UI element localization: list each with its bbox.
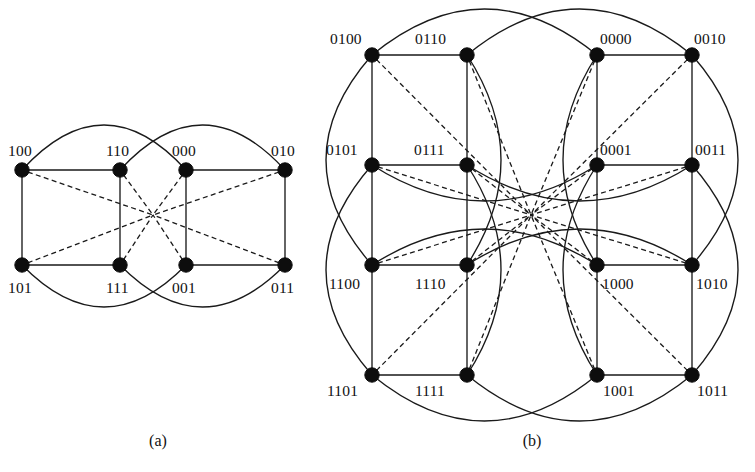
edge-arc-100-000 [22, 125, 186, 170]
dashed-edge-001-hub [153, 215, 183, 260]
figure-root: 100110000010101111001011 010001100000001… [0, 0, 755, 472]
node-label-010: 010 [271, 142, 295, 159]
node-label-0010: 0010 [694, 30, 726, 47]
node-1101[interactable] [365, 368, 379, 382]
node-label-1100: 1100 [329, 275, 360, 292]
node-label-1001: 1001 [603, 382, 635, 399]
edge-arc-101-001 [22, 265, 186, 307]
node-000[interactable] [179, 163, 193, 177]
edge-arc-0101-1101 [326, 165, 372, 375]
node-label-0111: 0111 [414, 141, 445, 158]
node-1100[interactable] [365, 258, 379, 272]
panel-b: 0100011000000010010101110001001111001110… [326, 9, 738, 421]
node-1000[interactable] [590, 258, 604, 272]
dashed-edge-1011-hub [531, 215, 688, 371]
node-101[interactable] [15, 258, 29, 272]
edge-arc-1101-1001 [372, 375, 597, 421]
node-011[interactable] [278, 258, 292, 272]
node-0110[interactable] [460, 48, 474, 62]
edge-arc-0100-1100 [326, 55, 372, 265]
dashed-edge-101-hub [28, 215, 153, 263]
edge-arc-110-010 [120, 125, 285, 170]
node-0101[interactable] [365, 158, 379, 172]
node-label-0110: 0110 [415, 30, 446, 47]
node-100[interactable] [15, 163, 29, 177]
dashed-edge-010-hub [153, 172, 279, 215]
dashed-edge-000-hub [153, 175, 182, 215]
node-label-0100: 0100 [330, 30, 362, 47]
edge-arc-0011-1011 [692, 165, 738, 375]
dashed-edge-0101-hub [378, 167, 531, 215]
dashed-edge-111-hub [123, 215, 153, 260]
node-label-0011: 0011 [695, 141, 726, 158]
dashed-edge-1101-hub [376, 215, 531, 371]
node-label-0001: 0001 [600, 141, 632, 158]
node-label-1011: 1011 [697, 382, 728, 399]
node-label-001: 001 [172, 279, 196, 296]
dashed-edge-1010-hub [531, 215, 686, 263]
node-label-100: 100 [8, 142, 32, 159]
node-label-110: 110 [106, 142, 129, 159]
node-label-1000: 1000 [602, 275, 634, 292]
dashed-edge-0011-hub [531, 167, 686, 215]
node-label-0000: 0000 [600, 30, 632, 47]
node-1010[interactable] [685, 258, 699, 272]
node-0000[interactable] [590, 48, 604, 62]
panel-caption-a: (a) [149, 432, 167, 450]
node-0100[interactable] [365, 48, 379, 62]
node-110[interactable] [113, 163, 127, 177]
dashed-edge-1100-hub [378, 215, 531, 263]
dashed-edge-110-hub [124, 175, 153, 215]
edge-arc-1111-1011 [467, 375, 692, 421]
node-1110[interactable] [460, 258, 474, 272]
node-label-1111: 1111 [415, 382, 445, 399]
node-0010[interactable] [685, 48, 699, 62]
node-0111[interactable] [460, 158, 474, 172]
panel-caption-b: (b) [523, 432, 542, 450]
edge-arc-111-011 [120, 265, 285, 307]
node-label-1010: 1010 [696, 275, 728, 292]
node-label-000: 000 [172, 142, 196, 159]
node-111[interactable] [113, 258, 127, 272]
edge-arc-0100-0000 [372, 9, 597, 55]
graph-canvas: 100110000010101111001011 010001100000001… [0, 0, 755, 472]
dashed-edge-100-hub [28, 172, 153, 215]
panel-a: 100110000010101111001011 [8, 125, 295, 307]
dashed-edge-011-hub [153, 215, 279, 263]
dashed-edge-0100-hub [376, 59, 531, 215]
node-label-1101: 1101 [327, 382, 358, 399]
node-0011[interactable] [685, 158, 699, 172]
node-1011[interactable] [685, 368, 699, 382]
node-0001[interactable] [590, 158, 604, 172]
node-label-1110: 1110 [415, 275, 446, 292]
node-1001[interactable] [590, 368, 604, 382]
node-1111[interactable] [460, 368, 474, 382]
node-010[interactable] [278, 163, 292, 177]
caption-group: (a)(b) [149, 432, 541, 450]
node-label-011: 011 [271, 279, 294, 296]
dashed-edge-0010-hub [531, 59, 688, 215]
node-label-101: 101 [8, 279, 32, 296]
edge-arc-0110-0010 [467, 9, 692, 55]
node-001[interactable] [179, 258, 193, 272]
node-label-0101: 0101 [326, 141, 358, 158]
node-label-111: 111 [106, 279, 129, 296]
edge-arc-0010-1010 [692, 55, 738, 265]
